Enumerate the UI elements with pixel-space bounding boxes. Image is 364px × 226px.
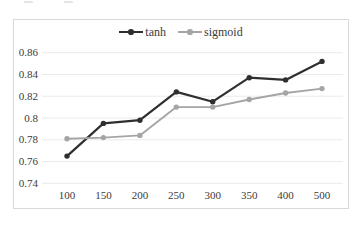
series-marker-sigmoid [247, 97, 252, 102]
y-tick-label: 0.84 [0, 68, 38, 81]
series-marker-sigmoid [64, 136, 69, 141]
x-tick-label: 100 [49, 189, 85, 202]
x-tick-label: 300 [195, 189, 231, 202]
y-tick-label: 0.86 [0, 46, 38, 59]
legend-marker-tanh [119, 27, 143, 37]
x-tick-label: 350 [231, 189, 267, 202]
chart-legend: tanh sigmoid [13, 24, 349, 40]
series-marker-sigmoid [137, 133, 142, 138]
x-tick-label: 400 [268, 189, 304, 202]
legend-label-sigmoid: sigmoid [204, 25, 243, 39]
series-marker-sigmoid [174, 104, 179, 109]
series-line-tanh [67, 61, 322, 156]
chart-screenshot: tanh sigmoid 0.860.840.820.80.780.760.74… [0, 0, 364, 226]
y-tick-label: 0.8 [0, 112, 38, 125]
series-marker-tanh [210, 99, 215, 104]
y-tick-label: 0.78 [0, 133, 38, 146]
series-marker-tanh [247, 75, 252, 80]
x-tick-label: 500 [304, 189, 340, 202]
y-tick-label: 0.74 [0, 177, 38, 190]
series-marker-sigmoid [319, 86, 324, 91]
series-marker-tanh [283, 77, 288, 82]
series-marker-tanh [101, 121, 106, 126]
x-tick-label: 200 [122, 189, 158, 202]
y-tick-label: 0.76 [0, 155, 38, 168]
series-marker-tanh [174, 89, 179, 94]
x-tick-label: 250 [158, 189, 194, 202]
legend-label-tanh: tanh [145, 25, 166, 39]
legend-item-tanh: tanh [119, 25, 166, 39]
x-tick-label: 150 [85, 189, 121, 202]
y-tick-label: 0.82 [0, 90, 38, 103]
series-marker-sigmoid [283, 90, 288, 95]
series-marker-sigmoid [101, 135, 106, 140]
series-marker-tanh [137, 118, 142, 123]
series-marker-tanh [319, 59, 324, 64]
series-marker-tanh [64, 153, 69, 158]
legend-item-sigmoid: sigmoid [178, 25, 243, 39]
legend-marker-sigmoid [178, 27, 202, 37]
series-marker-sigmoid [210, 104, 215, 109]
